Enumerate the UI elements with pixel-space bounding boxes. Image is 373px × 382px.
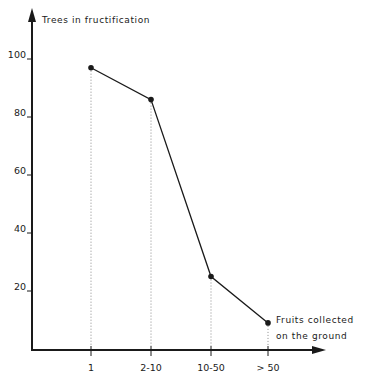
data-point xyxy=(148,97,154,103)
x-tick-label: > 50 xyxy=(256,362,279,373)
x-tick-label: 1 xyxy=(88,362,94,373)
x-axis-label-line1: Fruits collected xyxy=(276,315,354,325)
y-ticks: 20406080100 xyxy=(8,49,32,292)
y-axis-label: Trees in fructification xyxy=(41,15,150,25)
axes xyxy=(28,8,326,354)
y-tick-label: 100 xyxy=(8,49,26,60)
x-axis-label-line2: on the ground xyxy=(276,331,347,341)
y-tick-label: 20 xyxy=(14,281,26,292)
y-tick-label: 80 xyxy=(14,107,26,118)
data-point xyxy=(208,274,214,280)
x-tick-label: 10-50 xyxy=(197,362,225,373)
x-axis-arrow-icon xyxy=(312,346,326,354)
y-axis-arrow-icon xyxy=(28,8,36,22)
x-tick-label: 2-10 xyxy=(140,362,162,373)
data-point xyxy=(88,65,94,71)
data-line xyxy=(91,68,268,323)
drop-lines xyxy=(91,68,268,349)
data-points xyxy=(88,65,271,326)
line-chart: 20406080100 12-1010-50> 50 Trees in fruc… xyxy=(0,0,373,382)
data-point xyxy=(265,320,271,326)
y-tick-label: 60 xyxy=(14,165,26,176)
y-tick-label: 40 xyxy=(14,223,26,234)
